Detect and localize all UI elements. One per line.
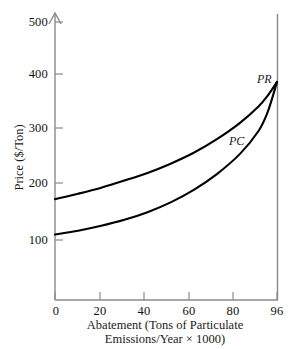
- x-tick-label-60: 60: [178, 304, 200, 319]
- x-axis-title-line2: Emissions/Year × 1000): [40, 332, 290, 346]
- chart-figure: 500 400 300 200 100 0 20 40 60 80 96 Pri…: [0, 0, 296, 349]
- x-tick-label-80: 80: [222, 304, 244, 319]
- curve-label-pr: PR: [257, 72, 272, 87]
- x-tick-label-40: 40: [133, 304, 155, 319]
- y-tick-label-500: 500: [12, 15, 48, 30]
- x-tick-marks: [55, 292, 277, 300]
- x-tick-label-20: 20: [89, 304, 111, 319]
- y-tick-marks: [55, 22, 63, 240]
- y-axis-title: Price ($/Ton): [12, 98, 27, 218]
- x-tick-label-96: 96: [266, 304, 288, 319]
- x-axis-title-line1: Abatement (Tons of Particulate: [87, 318, 243, 332]
- x-axis-title: Abatement (Tons of Particulate Emissions…: [40, 318, 290, 346]
- curve-label-pc: PC: [229, 134, 244, 149]
- x-tick-label-0: 0: [48, 304, 64, 319]
- y-tick-label-400: 400: [12, 67, 48, 82]
- y-tick-label-100: 100: [12, 233, 48, 248]
- chart-plot-area: [0, 0, 296, 349]
- curve-pc: [55, 82, 277, 235]
